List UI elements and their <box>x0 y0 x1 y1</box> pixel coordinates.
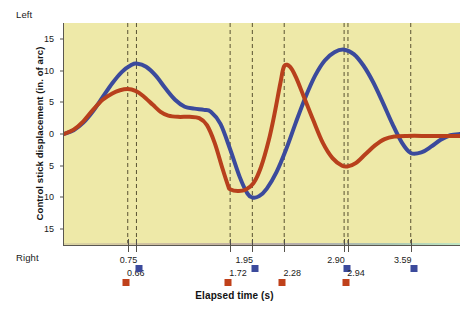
x-axis-line <box>63 245 460 246</box>
x-annotation-label: 2.28 <box>283 268 301 278</box>
series-line-red-trace <box>64 65 460 191</box>
x-tick-mark <box>128 239 129 246</box>
x-axis-title: Elapsed time (s) <box>0 290 469 301</box>
y-tick-label: 15 <box>44 224 54 234</box>
x-tick-mark <box>252 239 253 246</box>
x-tick-mark-lower <box>411 246 412 252</box>
x-annotation-swatch-red <box>279 279 286 286</box>
x-tick-mark <box>230 239 231 246</box>
x-annotation-swatch-blue <box>136 265 143 272</box>
x-annotation-label: 1.72 <box>229 268 247 278</box>
x-annotation-label: 2.90 <box>327 255 345 265</box>
x-annotation-label: 0.75 <box>120 255 138 265</box>
data-traces <box>64 50 460 198</box>
y-tick-label: 5 <box>49 97 54 107</box>
x-tick-mark <box>284 239 285 246</box>
x-tick-mark <box>348 239 349 246</box>
x-annotation-swatch-red <box>122 279 129 286</box>
x-tick-mark <box>136 239 137 246</box>
x-annotation-label: 1.95 <box>236 255 254 265</box>
x-tick-mark-lower <box>252 246 253 252</box>
x-tick-mark <box>411 239 412 246</box>
x-annotation-swatch-blue <box>410 265 417 272</box>
x-tick-mark <box>344 239 345 246</box>
y-tick-label: 10 <box>44 192 54 202</box>
x-annotation-label: 2.94 <box>347 268 365 278</box>
x-annotation-swatch-blue <box>252 265 259 272</box>
x-tick-mark-lower <box>230 246 231 252</box>
plot-area <box>64 23 460 245</box>
x-annotation-swatch-red <box>225 279 232 286</box>
x-tick-mark-lower <box>128 246 129 252</box>
y-tick-label: 15 <box>44 34 54 44</box>
y-tick-label: 5 <box>49 161 54 171</box>
y-tick-label: 0 <box>49 129 54 139</box>
x-tick-mark-lower <box>348 246 349 252</box>
y-tick-label: 10 <box>44 66 54 76</box>
plot-svg <box>64 23 460 245</box>
chart-figure: Left Right Control stick displacement (i… <box>0 0 469 312</box>
x-tick-mark-lower <box>344 246 345 252</box>
x-tick-mark-lower <box>136 246 137 252</box>
x-annotation-label: 3.59 <box>394 255 412 265</box>
x-tick-mark-lower <box>284 246 285 252</box>
x-annotation-swatch-red <box>342 279 349 286</box>
y-axis-ticks: 15105051015 <box>0 0 64 312</box>
series-line-blue-trace <box>64 50 460 198</box>
